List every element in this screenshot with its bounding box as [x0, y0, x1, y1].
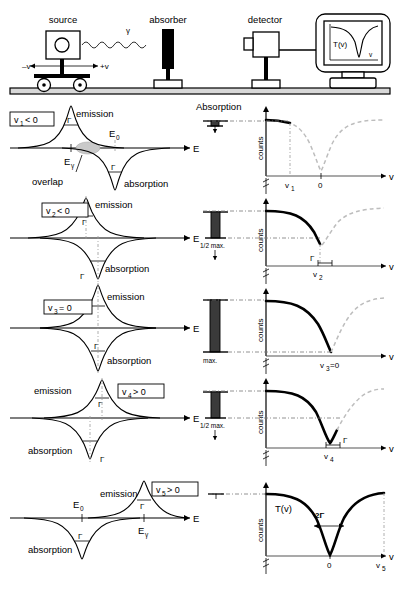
row-1-egamma-sub: γ: [71, 162, 75, 170]
detector-window: [244, 38, 253, 50]
row-4-measured-curve: [266, 391, 337, 443]
row-3-v-axis-label: v: [389, 351, 394, 362]
row-3-energy-arrow: [184, 325, 190, 331]
row-1-counts-arrow: [263, 106, 269, 112]
detector-assembly: [244, 32, 318, 88]
velocity-arrow-left: [30, 63, 35, 68]
row-4-counts-arrow: [263, 378, 269, 384]
row-3-ghost-right: [331, 298, 384, 352]
row-4-bar-arrow: [213, 436, 217, 440]
row-2-counts-panel: 1/2 max. v counts Γ v 2: [200, 198, 394, 284]
cart-platform: [34, 74, 90, 78]
row-5-width-arrow-left: [314, 524, 319, 529]
row-3-counts-arrow: [263, 288, 269, 294]
row-1-counts-label: counts: [256, 136, 265, 160]
cart-wheel-right-hub: [78, 83, 82, 87]
row-2-energy-panel: E emission absorption Γ Γ v 2 < 0: [10, 196, 199, 282]
row-3: E emission absorption Γ v 3 = 0 max. v: [10, 283, 394, 374]
row-5: E emission absorption Γ Γ E γ E 0 v 5 > …: [10, 481, 394, 574]
cart-mast: [60, 59, 64, 74]
row-1-zero-label: 0: [318, 181, 323, 190]
monitor-stand: [330, 78, 376, 88]
row-5-v-axis-label: v: [389, 551, 394, 562]
row-4: E emission absorption Γ Γ v 4 > 0 1/2 ma…: [10, 378, 394, 466]
row-1-energy-panel: E emission absorption Γ Γ E γ E 0 overla…: [10, 106, 199, 190]
absorber-foil: [162, 29, 174, 69]
mossbauer-figure: source absorber detector –v +v γ: [0, 0, 403, 590]
row-4-ghost-right: [337, 389, 384, 430]
row-5-energy-axis-label: E: [193, 513, 199, 524]
row-2-width-label: Γ: [310, 254, 315, 263]
row-1-egamma-label: E: [64, 156, 70, 167]
row-1-counts-panel: Absorption v counts v 1: [196, 101, 394, 194]
row-3-energy-axis-label: E: [193, 323, 199, 334]
row-1-velocity-symbol: v: [14, 115, 19, 125]
row-4-v-axis-label: v: [389, 443, 394, 454]
row-5-velocity-symbol: v: [156, 485, 161, 495]
velocity-pos-label: +v: [100, 62, 109, 71]
velocity-arrow-right: [93, 63, 98, 68]
row-5-curve-label: T(v): [275, 503, 292, 514]
row-4-width-label: Γ: [343, 436, 348, 445]
row-1-emission-width-label: Γ: [67, 116, 72, 125]
row-3-v3-suffix: =0: [330, 361, 340, 370]
row-1-energy-axis-label: E: [193, 143, 199, 154]
row-3-velocity-arrow: [381, 353, 386, 358]
absorber-base: [154, 80, 182, 88]
cart-wheel-left-hub: [42, 83, 46, 87]
row-1-ghost-dip-curve: [266, 120, 384, 171]
row-3-bar-label: max.: [203, 357, 217, 364]
gamma-label: γ: [126, 26, 130, 35]
row-4-absorption-bar: [211, 392, 220, 418]
row-4-v4-label: v: [324, 452, 328, 461]
row-5-e0-sub: 0: [80, 505, 84, 512]
row-4-v4-sub: 4: [330, 456, 334, 463]
row-2-velocity-sub: 2: [52, 211, 56, 218]
row-3-absorption-bar: [210, 300, 220, 352]
row-1-overlap-label: overlap: [32, 176, 63, 187]
row-5-emission-width-label: Γ: [140, 502, 145, 511]
detector-body: [253, 32, 279, 57]
row-2: E emission absorption Γ Γ v 2 < 0 1/2 ma…: [10, 196, 394, 284]
absorber-label: absorber: [149, 14, 187, 25]
row-3-velocity-sub: 3: [54, 308, 58, 315]
row-2-measured-curve: [266, 211, 320, 244]
row-4-counts-label: counts: [256, 410, 265, 434]
row-5-emission-label: emission: [100, 488, 138, 499]
row-5-e0-label: E: [73, 499, 79, 510]
row-3-measured-curve: [266, 301, 331, 352]
source-box: [46, 31, 80, 59]
row-5-velocity-arrow: [381, 553, 386, 558]
row-2-bar-arrow: [213, 256, 217, 260]
row-2-energy-arrow: [184, 235, 190, 241]
row-2-bar-label: 1/2 max.: [200, 242, 225, 249]
row-4-velocity-rel: > 0: [133, 387, 146, 397]
row-2-absorption-width-label: Γ: [80, 272, 85, 281]
row-2-velocity-rel: < 0: [57, 206, 70, 216]
row-3-counts-label: counts: [256, 318, 265, 342]
row-5-absorption-width-label: Γ: [78, 532, 83, 541]
row-5-v5-sub: 5: [382, 565, 386, 572]
row-1-v1-sub: 1: [291, 185, 295, 192]
row-2-counts-arrow: [263, 198, 269, 204]
detector-base: [252, 80, 280, 88]
row-2-v2-sub: 2: [319, 274, 323, 281]
row-1-overlap-leader: [76, 155, 82, 172]
absorption-header-label: Absorption: [196, 101, 241, 112]
row-5-egamma-sub: γ: [145, 531, 149, 539]
row-1-e0-label: E: [109, 128, 115, 139]
monitor-curve-label: T(v): [333, 40, 348, 49]
row-2-energy-axis-label: E: [193, 233, 199, 244]
row-4-energy-panel: E emission absorption Γ Γ v 4 > 0: [10, 378, 199, 464]
row-2-absorption-bar: [211, 212, 220, 238]
row-5-zero-label: 0: [327, 561, 332, 570]
row-5-energy-panel: E emission absorption Γ Γ E γ E 0 v 5 > …: [10, 481, 199, 559]
row-2-absorption-label: absorption: [105, 263, 149, 274]
row-1-emission-label: emission: [76, 108, 114, 119]
row-5-absorption-label: absorption: [28, 544, 72, 555]
row-3-v3-label: v: [320, 361, 324, 370]
apparatus-diagram: source absorber detector –v +v γ: [10, 14, 390, 94]
row-1-e0-sub: 0: [116, 134, 120, 141]
row-4-velocity-sub: 4: [128, 392, 132, 399]
source-label: source: [49, 14, 78, 25]
